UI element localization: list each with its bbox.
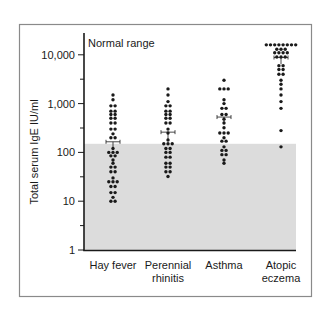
data-point (281, 43, 284, 46)
data-point (162, 142, 165, 145)
data-point (227, 87, 230, 90)
data-point (265, 43, 268, 46)
data-point (166, 127, 169, 130)
data-point (220, 153, 223, 156)
data-point (277, 73, 280, 76)
y-tick-label: 1 (69, 244, 75, 256)
data-point (277, 51, 280, 54)
data-point (111, 132, 114, 135)
data-point (109, 104, 112, 107)
data-point (109, 165, 112, 168)
data-point (166, 142, 169, 145)
data-point (284, 55, 287, 58)
data-point (224, 149, 227, 152)
chart-figure: Normal range 1101001,00010,000 Hay fever… (0, 0, 335, 311)
data-point (279, 79, 282, 82)
x-category-label: Atopiceczema (262, 259, 301, 284)
data-point (116, 180, 119, 183)
y-tick-label: 10 (63, 195, 75, 207)
data-point (290, 43, 293, 46)
data-point (164, 165, 167, 168)
data-point (269, 43, 272, 46)
data-point (222, 79, 225, 82)
x-category-label: Hay fever (89, 259, 136, 271)
data-point (164, 117, 167, 120)
data-point (220, 107, 223, 110)
data-point (281, 73, 284, 76)
data-point (164, 113, 167, 116)
data-point (275, 55, 278, 58)
data-point (164, 162, 167, 165)
normal-range-shading (84, 144, 296, 250)
data-point (164, 147, 167, 150)
data-point (222, 102, 225, 105)
data-point (111, 176, 114, 179)
data-point (166, 93, 169, 96)
data-point (222, 126, 225, 129)
data-point (279, 93, 282, 96)
data-point (168, 151, 171, 154)
data-point (109, 127, 112, 130)
data-point (281, 68, 284, 71)
data-point (113, 170, 116, 173)
data-point (109, 185, 112, 188)
data-point (277, 64, 280, 67)
data-point (164, 170, 167, 173)
data-point (222, 162, 225, 165)
data-point (113, 154, 116, 157)
data-point (107, 180, 110, 183)
data-point (168, 113, 171, 116)
data-point (286, 43, 289, 46)
data-point (164, 151, 167, 154)
data-point (109, 136, 112, 139)
data-point (113, 109, 116, 112)
data-point (113, 117, 116, 120)
data-point (111, 180, 114, 183)
data-point (168, 165, 171, 168)
data-point (109, 191, 112, 194)
data-point (168, 104, 171, 107)
data-point (111, 158, 114, 161)
y-tick-label: 100 (57, 146, 75, 158)
data-point (111, 93, 114, 96)
data-point (286, 51, 289, 54)
ige-dot-plot: Normal range 1101001,00010,000 Hay fever… (0, 0, 335, 311)
data-point (113, 127, 116, 130)
data-point (220, 139, 223, 142)
data-point (279, 145, 282, 148)
data-point (168, 109, 171, 112)
y-tick-label: 1,000 (47, 98, 75, 110)
data-point (168, 121, 171, 124)
data-point (281, 64, 284, 67)
data-point (279, 100, 282, 103)
data-point (109, 117, 112, 120)
data-point (168, 170, 171, 173)
data-point (273, 51, 276, 54)
data-point (222, 98, 225, 101)
data-point (164, 109, 167, 112)
data-point (222, 87, 225, 90)
data-point (277, 43, 280, 46)
data-point (281, 51, 284, 54)
data-point (109, 121, 112, 124)
data-point (109, 113, 112, 116)
data-point (116, 151, 119, 154)
data-point (113, 104, 116, 107)
data-point (113, 200, 116, 203)
data-point (279, 87, 282, 90)
data-point (222, 158, 225, 161)
data-point (294, 43, 297, 46)
normal-range-label: Normal range (88, 37, 155, 49)
data-point (218, 131, 221, 134)
data-point (171, 142, 174, 145)
data-point (109, 170, 112, 173)
data-point (113, 165, 116, 168)
x-category-label: Asthma (205, 259, 243, 271)
data-point (109, 200, 112, 203)
data-point (224, 107, 227, 110)
data-point (168, 117, 171, 120)
data-point (113, 136, 116, 139)
data-point (113, 121, 116, 124)
data-point (277, 68, 280, 71)
data-point (164, 121, 167, 124)
